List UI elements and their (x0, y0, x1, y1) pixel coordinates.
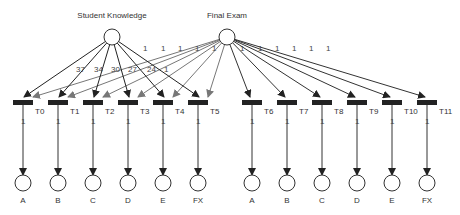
arc-weight: 1 (178, 44, 183, 53)
output-place-label: FX (422, 196, 433, 205)
place-output (384, 175, 400, 191)
place-output (279, 175, 295, 191)
arc-weight: 24 (147, 65, 156, 74)
place-label: Final Exam (207, 11, 247, 20)
arc-weight: 1 (258, 44, 263, 53)
output-place-label: E (389, 196, 394, 205)
place-output (190, 175, 206, 191)
arc-weight: 1 (161, 117, 166, 126)
output-place-label: B (55, 196, 60, 205)
output-place-label: FX (193, 196, 204, 205)
arc-weight: 1 (21, 117, 26, 126)
place-output (85, 175, 101, 191)
arc-weight: 1 (195, 44, 200, 53)
output-place-label: A (249, 196, 255, 205)
transition-label: T0 (35, 107, 45, 116)
arc-weight: 30 (111, 65, 120, 74)
transition-label: T4 (175, 107, 185, 116)
transition-T0 (13, 100, 33, 105)
place-output (244, 175, 260, 191)
arc-weight: 34 (94, 65, 103, 74)
transition-T6 (242, 100, 262, 105)
transition-label: T6 (264, 107, 274, 116)
arc-weight: 1 (355, 117, 360, 126)
arc-weight: 1 (196, 117, 201, 126)
transition-T4 (153, 100, 173, 105)
transition-T7 (277, 100, 297, 105)
transition-T5 (188, 100, 208, 105)
transition-label: T8 (334, 107, 344, 116)
transition-label: T3 (140, 107, 150, 116)
transition-T8 (312, 100, 332, 105)
arc-weight: 1 (285, 117, 290, 126)
arc-weight: 1 (91, 117, 96, 126)
place-final-exam (219, 29, 235, 45)
arc-weight: 1 (425, 117, 430, 126)
place-output (349, 175, 365, 191)
arc-weight: 1 (250, 117, 255, 126)
transition-T3 (118, 100, 138, 105)
arc-weight: 1 (309, 44, 314, 53)
place-output (155, 175, 171, 191)
arc-weight: 1 (320, 117, 325, 126)
place-output (314, 175, 330, 191)
arc-weight: 1 (56, 117, 61, 126)
arc-weight: 1 (143, 44, 148, 53)
transition-T10 (382, 100, 402, 105)
arc-weight: 1 (126, 117, 131, 126)
arc-weight: 1 (161, 44, 166, 53)
transition-label: T7 (299, 107, 309, 116)
output-place-label: D (354, 196, 360, 205)
arc-weight: 1 (164, 65, 169, 74)
transition-label: T2 (105, 107, 115, 116)
transition-label: T9 (369, 107, 379, 116)
transition-label: T5 (210, 107, 220, 116)
arc-weight: 27 (128, 65, 137, 74)
transition-label: T10 (404, 107, 418, 116)
output-place-label: E (160, 196, 165, 205)
arc-weight: 1 (390, 117, 395, 126)
arc-weight: 1 (240, 44, 245, 53)
output-place-label: B (284, 196, 289, 205)
transition-T9 (347, 100, 367, 105)
transition-T2 (83, 100, 103, 105)
arc-weight: 1 (275, 44, 280, 53)
output-place-label: C (90, 196, 96, 205)
place-student-knowledge (104, 29, 120, 45)
arc-student-knowledge-T4 (117, 43, 164, 97)
place-output (419, 175, 435, 191)
arc-weight: 1 (326, 44, 331, 53)
arc-weight: 1 (292, 44, 297, 53)
arc-weight: 37 (76, 65, 85, 74)
arc-weight: 1 (212, 44, 217, 53)
place-output (15, 175, 31, 191)
transition-label: T1 (70, 107, 80, 116)
transition-T11 (417, 100, 437, 105)
place-label: Student Knowledge (77, 11, 147, 20)
transition-T1 (48, 100, 68, 105)
petri-net-diagram: 3734302724111111111111Student KnowledgeF… (0, 0, 460, 215)
output-place-label: C (319, 196, 325, 205)
output-place-label: A (20, 196, 26, 205)
transition-label: T11 (439, 107, 453, 116)
place-output (120, 175, 136, 191)
place-output (50, 175, 66, 191)
output-place-label: D (125, 196, 131, 205)
